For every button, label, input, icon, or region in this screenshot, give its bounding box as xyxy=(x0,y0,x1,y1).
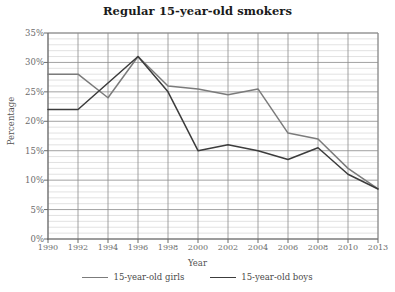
legend-label: 15-year-old girls xyxy=(113,272,184,282)
axis-lines xyxy=(47,33,378,240)
axis-ticks xyxy=(44,33,378,243)
line-chart-plot xyxy=(0,0,395,268)
minor-gridlines xyxy=(48,39,378,233)
legend-line-swatch xyxy=(210,277,236,278)
series-line-boys xyxy=(48,57,378,189)
legend-item-girls[interactable]: 15-year-old girls xyxy=(82,272,184,282)
data-series xyxy=(48,57,378,189)
legend-line-swatch xyxy=(82,277,108,278)
plot-area-wrapper: Percentage Year 0%5%10%15%20%25%30%35% 1… xyxy=(0,0,395,268)
chart-legend: 15-year-old girls15-year-old boys xyxy=(0,272,395,282)
chart-figure: Regular 15-year-old smokers Percentage Y… xyxy=(0,0,395,292)
legend-item-boys[interactable]: 15-year-old boys xyxy=(210,272,312,282)
legend-label: 15-year-old boys xyxy=(241,272,312,282)
vertical-gridlines xyxy=(48,33,378,239)
major-gridlines xyxy=(48,33,378,239)
series-line-girls xyxy=(48,57,378,189)
